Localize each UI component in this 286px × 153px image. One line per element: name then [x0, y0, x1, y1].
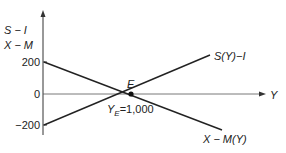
tick-label-200: 200 — [22, 56, 40, 68]
y-axis-arrow-icon — [41, 10, 46, 17]
saving-curve-label: S(Y)−I — [214, 50, 245, 62]
y-axis-label-top: S − I — [4, 24, 27, 36]
net-export-line — [44, 62, 222, 130]
tick-label-0: 0 — [34, 88, 40, 100]
point-e-label: E — [127, 78, 135, 90]
tick-label-neg200: −200 — [15, 119, 40, 131]
equilibrium-point — [128, 91, 133, 96]
diagram: S − I X − M 200 0 −200 Y E YE=1,000 S(Y)… — [0, 0, 286, 153]
x-axis-arrow-icon — [259, 92, 266, 97]
net-export-curve-label: X − M(Y) — [202, 133, 247, 145]
y-axis-label-bottom: X − M — [3, 39, 34, 51]
x-axis-label: Y — [270, 89, 278, 101]
ye-label: YE=1,000 — [107, 103, 154, 118]
